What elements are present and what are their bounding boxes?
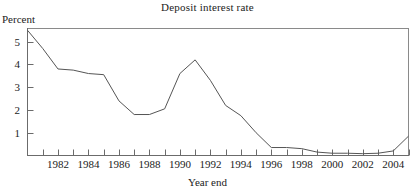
x-axis-label: Year end	[0, 176, 415, 188]
x-tick-label-2002: 2002	[346, 158, 380, 170]
x-axis-ticks	[44, 150, 410, 156]
data-series-line	[28, 30, 409, 153]
x-tick-label-1992: 1992	[193, 158, 227, 170]
x-tick-label-1990: 1990	[163, 158, 197, 170]
x-tick-label-1996: 1996	[254, 158, 288, 170]
x-tick-label-2004: 2004	[376, 158, 410, 170]
x-tick-label-1986: 1986	[102, 158, 136, 170]
x-tick-label-1984: 1984	[71, 158, 105, 170]
x-tick-label-2000: 2000	[315, 158, 349, 170]
y-tick-label-4: 4	[4, 58, 20, 70]
y-tick-label-2: 2	[4, 104, 20, 116]
y-tick-label-5: 5	[4, 36, 20, 48]
y-tick-label-3: 3	[4, 81, 20, 93]
chart-container: Deposit interest rate Percent 12345 1982…	[0, 0, 415, 191]
y-tick-label-1: 1	[4, 127, 20, 139]
x-tick-label-1994: 1994	[224, 158, 258, 170]
x-tick-label-1982: 1982	[41, 158, 75, 170]
axis-frame	[27, 28, 409, 156]
x-tick-label-1988: 1988	[132, 158, 166, 170]
y-axis-ticks	[28, 43, 34, 134]
x-tick-label-1998: 1998	[285, 158, 319, 170]
